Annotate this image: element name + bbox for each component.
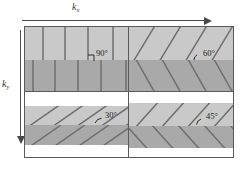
panel-top-left: 90° — [24, 26, 129, 92]
panel-grid: 90° — [24, 26, 232, 156]
band-light — [129, 27, 233, 60]
band-dark — [129, 126, 233, 148]
stripe-set-60-upper — [129, 27, 233, 60]
panel-bottom-left: 30° — [24, 91, 129, 158]
band-light — [25, 27, 128, 60]
kx-label-subscript: x — [76, 6, 79, 13]
ky-label-subscript: y — [6, 83, 9, 90]
stripe-set-60-lower — [129, 60, 233, 92]
band-dark — [129, 60, 233, 92]
angle-label-60: 60° — [203, 48, 215, 58]
band-blank-top — [129, 92, 233, 103]
stripe-set-45-lower — [129, 126, 233, 148]
kx-axis-label: kx — [72, 1, 79, 13]
band-blank-bottom — [25, 145, 128, 158]
arrow-right-icon — [204, 17, 212, 25]
panel-top-right: 60° — [128, 26, 234, 92]
band-blank-bottom — [129, 148, 233, 158]
angle-label-45: 45° — [206, 111, 218, 121]
angle-label-90: 90° — [96, 48, 108, 58]
ky-axis-label: ky — [2, 78, 9, 90]
panel-bottom-right: 45° — [128, 91, 234, 158]
kx-axis-line — [22, 20, 208, 21]
ky-axis-line — [20, 30, 21, 140]
band-dark — [25, 125, 128, 145]
stripe-set-30-lower — [25, 125, 128, 145]
band-dark — [25, 60, 128, 92]
angle-label-30: 30° — [105, 110, 117, 120]
kx-axis — [22, 16, 214, 26]
stripe-set-90-upper — [25, 27, 128, 60]
figure-root: kx ky — [0, 0, 240, 172]
stripe-set-90-lower — [25, 60, 128, 92]
band-blank-top — [25, 92, 128, 106]
